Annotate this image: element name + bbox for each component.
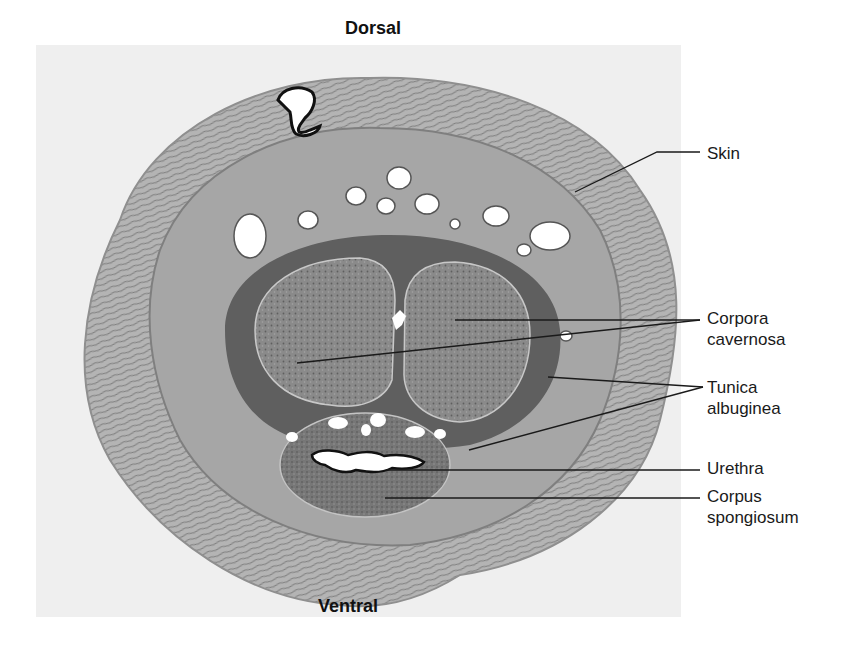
label-tunica-albuginea-line-2: albuginea [707, 398, 781, 419]
label-corpus-spongiosum-line-1: Corpus [707, 486, 799, 507]
label-skin: Skin [707, 143, 740, 164]
label-corpora-cavernosa-line-1: Corpora [707, 308, 785, 329]
label-urethra-line-1: Urethra [707, 458, 764, 479]
label-corpus-spongiosum: Corpus spongiosum [707, 486, 799, 528]
label-corpora-cavernosa-line-2: cavernosa [707, 329, 785, 350]
label-corpus-spongiosum-line-2: spongiosum [707, 507, 799, 528]
histology-figure: Dorsal Ventral Skin Corpora cavernosa Tu… [0, 0, 851, 652]
label-tunica-albuginea: Tunica albuginea [707, 377, 781, 419]
orientation-label-dorsal: Dorsal [345, 18, 401, 39]
orientation-label-ventral: Ventral [318, 596, 378, 617]
label-corpora-cavernosa: Corpora cavernosa [707, 308, 785, 350]
label-urethra: Urethra [707, 458, 764, 479]
label-tunica-albuginea-line-1: Tunica [707, 377, 781, 398]
label-skin-line-1: Skin [707, 143, 740, 164]
